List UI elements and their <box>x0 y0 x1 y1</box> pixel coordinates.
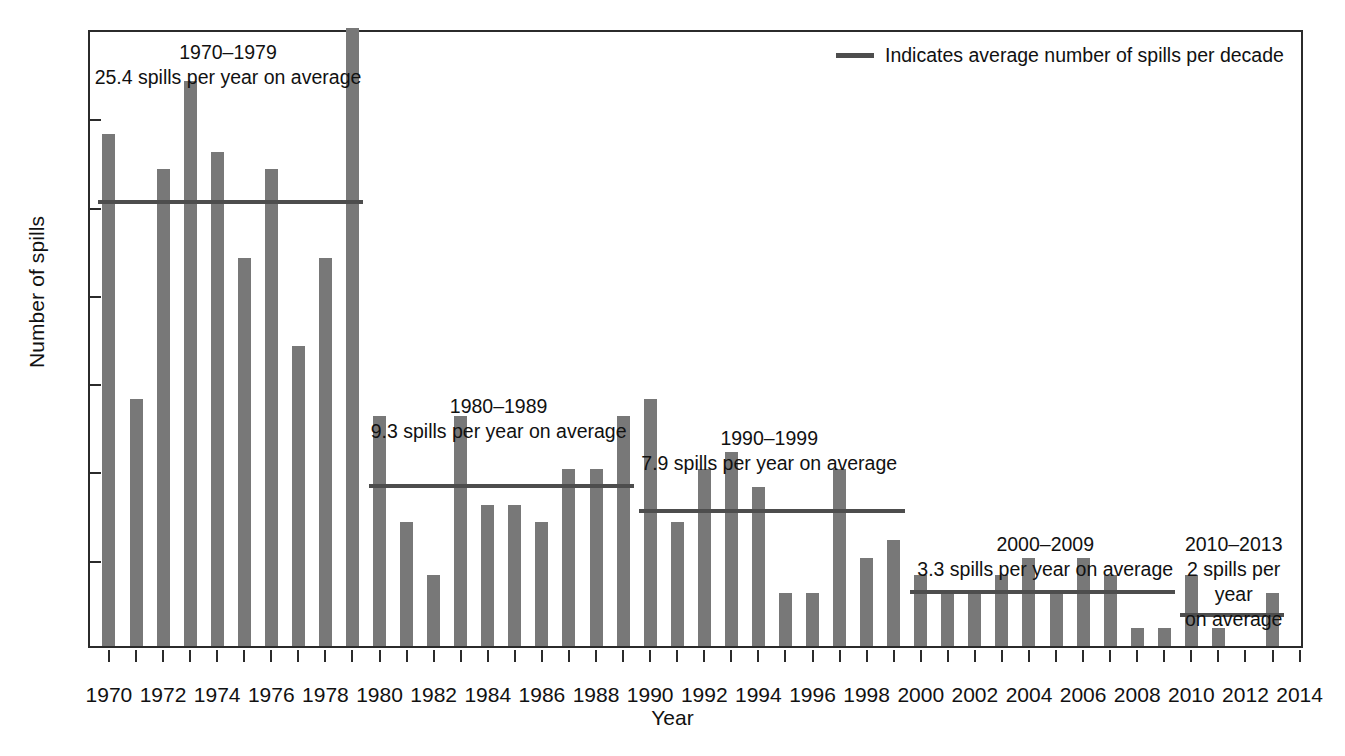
x-tick-mark <box>784 650 786 662</box>
bar-1992 <box>698 469 711 646</box>
x-tick-mark <box>514 650 516 662</box>
x-tick-mark <box>1299 650 1301 662</box>
x-tick-mark <box>676 650 678 662</box>
x-tick-mark <box>216 650 218 662</box>
bar-1997 <box>833 469 846 646</box>
x-tick-mark <box>730 650 732 662</box>
x-tick-mark <box>1082 650 1084 662</box>
x-tick-mark <box>839 650 841 662</box>
bar-2007 <box>1104 575 1117 646</box>
bar-1996 <box>806 593 819 646</box>
bar-1976 <box>265 169 278 646</box>
x-tick-mark <box>866 650 868 662</box>
bar-1974 <box>211 152 224 646</box>
bar-1979 <box>346 28 359 646</box>
x-tick-mark <box>243 650 245 662</box>
bar-1989 <box>617 416 630 646</box>
annotation-1990s: 1990–19997.9 spills per year on average <box>641 426 897 476</box>
bar-2002 <box>968 593 981 646</box>
x-tick-label: 2014 <box>1255 683 1345 707</box>
annotation-2010s: 2010–20132 spills per year on average <box>1166 532 1301 632</box>
bar-1985 <box>508 505 521 646</box>
x-tick-mark <box>1055 650 1057 662</box>
x-tick-mark <box>379 650 381 662</box>
annotation-2000s: 2000–20093.3 spills per year on average <box>917 532 1173 582</box>
bar-1995 <box>779 593 792 646</box>
chart-legend: Indicates average number of spills per d… <box>836 44 1284 67</box>
y-tick-mark <box>90 208 101 210</box>
x-tick-mark <box>595 650 597 662</box>
bar-1987 <box>562 469 575 646</box>
x-tick-mark <box>351 650 353 662</box>
annotation-1980s: 1980–19899.3 spills per year on average <box>371 394 627 444</box>
x-tick-mark <box>324 650 326 662</box>
x-tick-mark <box>947 650 949 662</box>
bar-1982 <box>427 575 440 646</box>
x-tick-mark <box>433 650 435 662</box>
bar-1991 <box>671 522 684 646</box>
x-tick-mark <box>297 650 299 662</box>
x-tick-mark <box>703 650 705 662</box>
y-tick-mark <box>90 384 101 386</box>
annotation-1970s: 1970–197925.4 spills per year on average <box>95 40 362 90</box>
x-tick-mark <box>1001 650 1003 662</box>
x-tick-mark <box>135 650 137 662</box>
bar-1999 <box>887 540 900 646</box>
average-line-2000-2009 <box>910 590 1176 594</box>
x-tick-mark <box>622 650 624 662</box>
bar-1981 <box>400 522 413 646</box>
x-tick-mark <box>1244 650 1246 662</box>
x-tick-mark <box>568 650 570 662</box>
bar-1970 <box>102 134 115 646</box>
annotation-1980s-title: 1980–1989 <box>371 394 627 419</box>
x-tick-mark <box>541 650 543 662</box>
x-tick-mark <box>270 650 272 662</box>
bar-1978 <box>319 258 332 646</box>
bar-1993 <box>725 452 738 646</box>
x-tick-mark <box>1217 650 1219 662</box>
bar-1983 <box>454 416 467 646</box>
y-tick-mark <box>90 119 101 121</box>
x-tick-mark <box>757 650 759 662</box>
bar-2008 <box>1131 628 1144 646</box>
x-tick-mark <box>1272 650 1274 662</box>
bar-1975 <box>238 258 251 646</box>
bar-1998 <box>860 558 873 646</box>
average-line-1990-1999 <box>639 509 905 513</box>
bar-2001 <box>941 593 954 646</box>
oil-spills-bar-chart: Number of spills Year 051015202530351970… <box>0 0 1345 756</box>
annotation-2000s-subtitle: 3.3 spills per year on average <box>917 557 1173 582</box>
x-tick-mark <box>460 650 462 662</box>
plot-inner: 0510152025303519701972197419761978198019… <box>90 32 1301 646</box>
x-tick-mark <box>893 650 895 662</box>
bar-1972 <box>157 169 170 646</box>
x-tick-mark <box>1109 650 1111 662</box>
average-line-swatch <box>836 53 874 58</box>
x-tick-mark <box>649 650 651 662</box>
x-tick-mark <box>162 650 164 662</box>
bar-1971 <box>130 399 143 646</box>
average-line-1980-1989 <box>369 484 635 488</box>
x-tick-mark <box>1163 650 1165 662</box>
x-tick-mark <box>812 650 814 662</box>
average-line-1970-1979 <box>98 200 364 204</box>
bar-1988 <box>590 469 603 646</box>
plot-area: 0510152025303519701972197419761978198019… <box>88 30 1303 648</box>
y-tick-mark <box>90 472 101 474</box>
bar-2005 <box>1050 593 1063 646</box>
annotation-1970s-subtitle: 25.4 spills per year on average <box>95 65 362 90</box>
x-tick-mark <box>487 650 489 662</box>
x-tick-mark <box>1136 650 1138 662</box>
y-tick-mark <box>90 561 101 563</box>
annotation-2000s-title: 2000–2009 <box>917 532 1173 557</box>
bar-1984 <box>481 505 494 646</box>
bar-1986 <box>535 522 548 646</box>
bar-1980 <box>373 416 386 646</box>
legend-label: Indicates average number of spills per d… <box>885 44 1284 67</box>
bar-2000 <box>914 575 927 646</box>
bar-2003 <box>995 575 1008 646</box>
x-tick-mark <box>1028 650 1030 662</box>
x-tick-mark <box>406 650 408 662</box>
x-tick-mark <box>108 650 110 662</box>
annotation-1990s-title: 1990–1999 <box>641 426 897 451</box>
